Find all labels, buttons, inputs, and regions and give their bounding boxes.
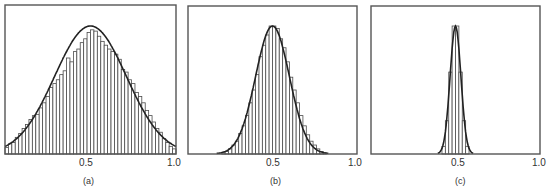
histogram-bar xyxy=(46,96,49,154)
histogram-bar xyxy=(262,45,265,154)
histogram-bar xyxy=(162,139,165,154)
histogram-bar xyxy=(84,39,87,154)
histogram-bar xyxy=(245,116,248,154)
histogram-bar xyxy=(249,103,252,154)
histogram-bar xyxy=(273,26,276,154)
histogram-bar xyxy=(166,142,169,154)
panel-caption: (b) xyxy=(270,176,281,186)
histogram-bar xyxy=(118,59,121,154)
x-tick-1.0: 1.0 xyxy=(167,157,181,168)
histogram-bar xyxy=(97,36,100,154)
histogram-bar xyxy=(80,43,83,154)
histogram-bar xyxy=(269,26,272,154)
histogram-bar xyxy=(125,72,128,154)
histogram-bar xyxy=(108,49,111,154)
histogram-bar xyxy=(67,58,70,154)
histogram-bar xyxy=(242,126,245,154)
x-tick-1.0: 1.0 xyxy=(348,157,362,168)
histogram-bar xyxy=(87,32,90,154)
histogram-bar xyxy=(63,71,66,154)
histogram-bar xyxy=(256,75,259,154)
panel-c: 0.5 1.0 (c) xyxy=(366,0,549,192)
x-tick-0.5: 0.5 xyxy=(451,157,465,168)
histogram-bar xyxy=(94,31,97,154)
histogram-bar xyxy=(43,103,46,154)
histogram-bar xyxy=(91,30,94,154)
histogram-bar xyxy=(12,142,15,154)
histogram-bar xyxy=(279,39,282,154)
histogram-bar xyxy=(169,146,172,154)
histogram-bar xyxy=(266,35,269,154)
histogram-bar xyxy=(56,80,59,154)
histogram-bar xyxy=(101,41,104,154)
histogram-bar xyxy=(70,62,73,154)
histogram-bar xyxy=(114,54,117,154)
panel-a: 0.5 1.0 (a) xyxy=(0,0,183,192)
x-tick-0.5: 0.5 xyxy=(79,157,93,168)
histogram-bar xyxy=(60,75,63,154)
histogram-bar xyxy=(77,49,80,154)
histogram-bar xyxy=(53,84,56,154)
panel-caption: (c) xyxy=(455,176,466,186)
histogram-bar xyxy=(39,108,42,154)
histogram-bar xyxy=(8,144,11,154)
panel-caption: (a) xyxy=(83,176,94,186)
histogram-bar xyxy=(104,45,107,154)
histogram-bar xyxy=(73,52,76,154)
histogram-bar xyxy=(32,116,35,154)
histogram-bar xyxy=(121,70,124,154)
panel-b: 0.5 1.0 (b) xyxy=(183,0,366,192)
histogram-bar xyxy=(49,87,52,154)
histogram-bar xyxy=(111,52,114,154)
histogram-bar xyxy=(283,48,286,154)
histogram-bar xyxy=(128,80,131,154)
histogram-bar xyxy=(276,29,279,154)
histogram-bar xyxy=(36,114,39,154)
x-tick-1.0: 1.0 xyxy=(532,157,546,168)
histogram-bar xyxy=(259,57,262,154)
x-tick-0.5: 0.5 xyxy=(266,157,280,168)
histogram-bar xyxy=(252,90,255,154)
